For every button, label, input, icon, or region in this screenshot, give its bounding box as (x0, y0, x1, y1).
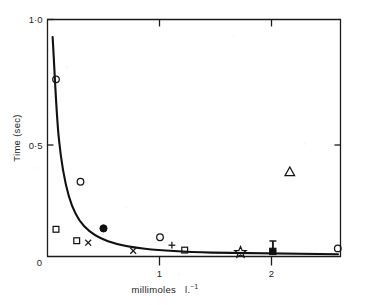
data-point-star (235, 247, 246, 258)
ytick-label-0-5: 0·5 (29, 140, 43, 151)
series-open-square (53, 226, 188, 253)
xtick-label-1: 1 (157, 268, 162, 279)
axis-frame (48, 20, 341, 257)
axis-box (48, 20, 341, 257)
series-filled-square-errorbar (269, 241, 276, 255)
series-star (235, 247, 246, 258)
ytick-label-0: 0 (37, 257, 42, 268)
series-open-circle (53, 76, 341, 252)
x-axis-title-exponent: −1 (190, 283, 198, 290)
figure-scatter-plot: 1·0 0·5 0 1 2 Time (sec) millimoles l.−1 (0, 0, 372, 305)
data-point-open-circle (77, 178, 84, 185)
data-point-open-square (53, 226, 59, 232)
series-open-triangle (285, 167, 295, 176)
fit-curve (53, 37, 338, 254)
data-point-plus (169, 242, 176, 249)
tick-labels: 1·0 0·5 0 1 2 (29, 14, 274, 279)
decay-curve-path (53, 37, 338, 254)
data-point-filled-circle (100, 225, 107, 232)
series-plus (169, 242, 176, 249)
data-point-cross-x (130, 248, 136, 254)
data-point-cross-x (85, 240, 91, 246)
data-point-open-triangle (285, 167, 295, 176)
axis-ticks (48, 20, 341, 266)
xtick-label-2: 2 (269, 268, 274, 279)
plot-canvas: 1·0 0·5 0 1 2 Time (sec) millimoles l.−1 (0, 0, 372, 305)
y-axis-title: Time (sec) (11, 114, 22, 162)
data-point-open-circle (157, 234, 164, 241)
x-axis-title-main: millimoles (131, 284, 176, 295)
x-axis-title: millimoles l.−1 (131, 283, 198, 295)
data-point-open-square (74, 238, 80, 244)
ytick-label-1-0: 1·0 (29, 14, 43, 25)
series-filled-circle (100, 225, 107, 232)
data-point-filled-square-errorbar (269, 241, 276, 255)
